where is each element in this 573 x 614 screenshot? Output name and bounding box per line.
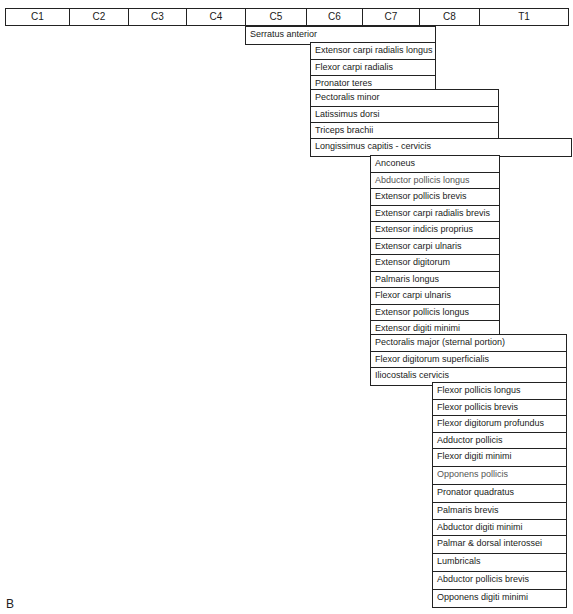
muscle-row: Anconeus: [371, 156, 499, 173]
panel-label: B: [6, 597, 14, 611]
muscle-row: Flexor carpi ulnaris: [371, 288, 499, 305]
muscle-row: Extensor indicis proprius: [371, 222, 499, 239]
muscle-row: Extensor carpi radialis brevis: [371, 206, 499, 223]
muscle-row: Extensor pollicis longus: [371, 305, 499, 322]
muscle-group-c7-t1: Pectoralis major (sternal portion) Flexo…: [370, 334, 567, 386]
muscle-row: Palmaris brevis: [433, 503, 566, 520]
muscle-group-c7-c8: Anconeus Abductor pollicis longus Extens…: [370, 155, 500, 339]
muscle-row: Flexor digitorum superficialis: [371, 352, 566, 369]
segment-c6: C6: [307, 9, 363, 25]
segment-c3: C3: [129, 9, 187, 25]
muscle-row: Flexor carpi radialis: [311, 60, 435, 77]
muscle-row: Flexor digitorum profundus: [433, 416, 566, 433]
muscle-row: Opponens digiti minimi: [433, 590, 566, 607]
segment-c5: C5: [246, 9, 307, 25]
muscle-row: Palmaris longus: [371, 272, 499, 289]
muscle-row: Pronator quadratus: [433, 485, 566, 503]
muscle-row: Adductor pollicis: [433, 433, 566, 450]
muscle-row: Flexor digiti minimi: [433, 449, 566, 467]
muscle-row: Abductor pollicis longus: [371, 173, 499, 190]
muscle-row: Extensor pollicis brevis: [371, 189, 499, 206]
muscle-row: Abductor digiti minimi: [433, 520, 566, 537]
segment-c8: C8: [420, 9, 480, 25]
segment-c2: C2: [70, 9, 129, 25]
muscle-row: Extensor carpi ulnaris: [371, 239, 499, 256]
segment-c7: C7: [363, 9, 420, 25]
segment-t1: T1: [480, 9, 568, 25]
muscle-group-c8-t1: Flexor pollicis longus Flexor pollicis b…: [432, 382, 567, 608]
muscle-group-c6-c8: Pectoralis minor Latissimus dorsi Tricep…: [310, 89, 499, 141]
muscle-row: Extensor carpi radialis longus: [311, 43, 435, 60]
muscle-row: Pectoralis major (sternal portion): [371, 335, 566, 352]
segment-c1: C1: [6, 9, 70, 25]
muscle-row: Flexor pollicis longus: [433, 383, 566, 400]
muscle-row: Extensor digitorum: [371, 255, 499, 272]
muscle-group-c6-t1: Longissimus capitis - cervicis: [310, 138, 572, 157]
spinal-segment-header: C1 C2 C3 C4 C5 C6 C7 C8 T1: [5, 8, 569, 26]
muscle-row: Longissimus capitis - cervicis: [311, 139, 571, 156]
muscle-row: Lumbricals: [433, 554, 566, 572]
muscle-row: Pectoralis minor: [311, 90, 498, 107]
muscle-group-c6-c7: Extensor carpi radialis longus Flexor ca…: [310, 42, 436, 94]
muscle-row: Abductor pollicis brevis: [433, 572, 566, 590]
muscle-row: Latissimus dorsi: [311, 107, 498, 124]
muscle-row: Flexor pollicis brevis: [433, 400, 566, 417]
muscle-row: Opponens pollicis: [433, 467, 566, 485]
muscle-row: Palmar & dorsal interossei: [433, 536, 566, 554]
segment-c4: C4: [187, 9, 246, 25]
